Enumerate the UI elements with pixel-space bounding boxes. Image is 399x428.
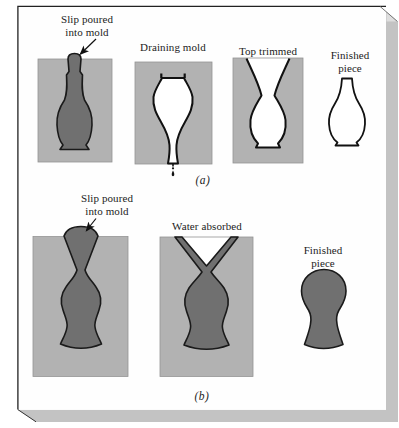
caption-a: (a) xyxy=(183,174,223,188)
caption-b: (b) xyxy=(182,390,222,404)
label-draining-mold: Draining mold xyxy=(131,41,215,54)
label-slip-poured-a: Slip poured into mold xyxy=(48,13,126,39)
label-slip-poured-b: Slip poured into mold xyxy=(68,192,146,218)
label-top-trimmed: Top trimmed xyxy=(226,45,310,58)
label-finished-piece-b: Finished piece xyxy=(282,244,364,270)
finished-piece-solid xyxy=(302,270,347,349)
slip-casting-figure: Slip poured into mold Draining mold Top … xyxy=(0,0,399,428)
label-finished-piece-a: Finished piece xyxy=(309,49,391,75)
slip-funnel-piece xyxy=(61,227,102,349)
label-water-absorbed: Water absorbed xyxy=(165,220,249,233)
